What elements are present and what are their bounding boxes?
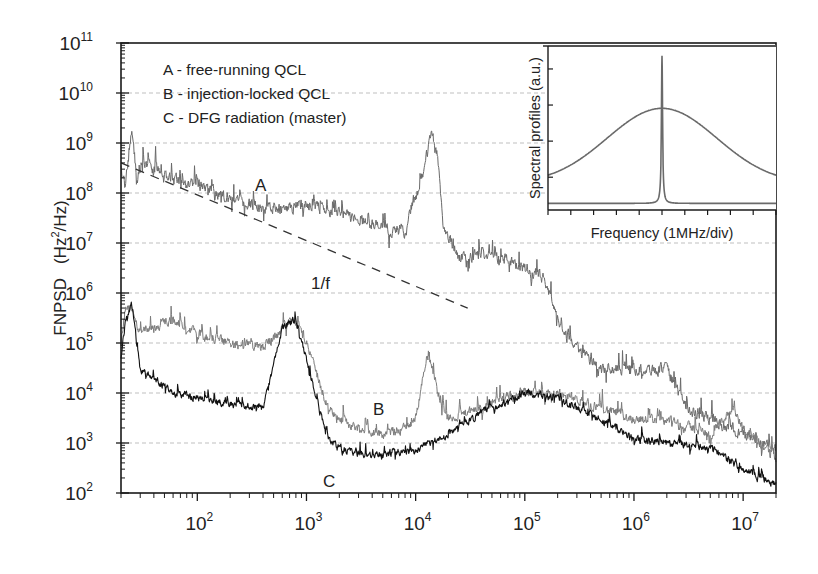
legend-entry-b: B - injection-locked QCL bbox=[163, 85, 331, 102]
svg-text:FNPSD(Hz2/Hz): FNPSD(Hz2/Hz) bbox=[49, 200, 70, 335]
legend-entry-a: A - free-running QCL bbox=[163, 61, 306, 78]
x-tick-label: 103 bbox=[295, 510, 323, 534]
y-axis-title: FNPSD(Hz2/Hz) bbox=[49, 200, 70, 335]
curve-b bbox=[121, 305, 776, 462]
x-tick-label: 107 bbox=[731, 510, 759, 534]
x-tick-label: 104 bbox=[404, 510, 432, 534]
y-axis-ticks: 10210310410510610710810910101011 bbox=[59, 30, 130, 504]
fnpsd-chart: 10210310410510610710810910101011 1021031… bbox=[0, 0, 818, 574]
inset-chart: Frequency (1MHz/div) Spectral profiles (… bbox=[527, 45, 776, 241]
annotation-b: B bbox=[373, 400, 384, 419]
y-tick-label: 1011 bbox=[59, 30, 93, 54]
annotation-1f: 1/f bbox=[311, 274, 330, 293]
x-tick-label: 106 bbox=[622, 510, 650, 534]
x-tick-label: 105 bbox=[513, 510, 541, 534]
legend-entry-c: C - DFG radiation (master) bbox=[163, 109, 346, 126]
inset-y-label: Spectral profiles (a.u.) bbox=[527, 57, 543, 199]
x-tick-label: 102 bbox=[185, 510, 213, 534]
one-over-f-line bbox=[121, 163, 468, 308]
y-tick-label: 109 bbox=[65, 130, 93, 154]
y-tick-label: 104 bbox=[65, 380, 93, 404]
x-axis-ticks: 102103104105106107 bbox=[121, 493, 776, 534]
annotation-a: A bbox=[255, 176, 267, 195]
y-tick-label: 103 bbox=[65, 430, 93, 454]
y-tick-label: 102 bbox=[65, 480, 93, 504]
y-tick-label: 1010 bbox=[59, 80, 94, 104]
annotation-c: C bbox=[323, 472, 335, 491]
legend: A - free-running QCL B - injection-locke… bbox=[163, 61, 346, 126]
y-axis-title-main: FNPSD bbox=[51, 278, 70, 336]
inset-x-label: Frequency (1MHz/div) bbox=[591, 225, 734, 241]
